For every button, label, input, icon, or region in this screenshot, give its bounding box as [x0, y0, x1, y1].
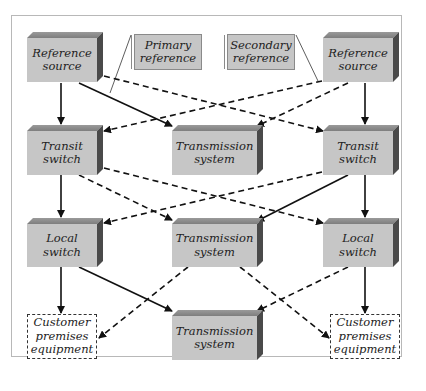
edge-refL-transitR [104, 76, 323, 131]
primary-callout-line [110, 35, 131, 93]
edge-localR-transsys3 [257, 267, 348, 311]
edge-transitR-transsys2 [257, 175, 348, 221]
transit-switch-right: Transitswitch [323, 125, 399, 175]
local-switch-right: Localswitch [323, 218, 399, 267]
dashed-edges [79, 76, 348, 338]
box-front-face: Transitswitch [323, 131, 393, 175]
box-front-face: Transmissionsystem [172, 316, 257, 360]
local-switch-left: Localswitch [27, 218, 103, 267]
transmission-system-2: Transmissionsystem [172, 218, 263, 267]
transmission-system-3: Transmissionsystem [172, 310, 263, 360]
box-front-face: Referencesource [27, 38, 97, 82]
box-side-face [97, 125, 103, 175]
secondary-reference-label-box: Secondaryreference [227, 34, 295, 70]
customer-premises-equipment-left: Customerpremisesequipment [27, 314, 97, 359]
box-side-face [393, 32, 399, 82]
box-front-face: Localswitch [27, 224, 97, 267]
box-front-face: Transmissionsystem [172, 131, 257, 175]
box-side-face [257, 125, 263, 175]
primary-reference-label-box: Primaryreference [134, 34, 202, 70]
reference-source-left-label: Referencesource [32, 47, 91, 74]
secondary-callout-line [296, 35, 318, 81]
transit-switch-left: Transitswitch [27, 125, 103, 175]
reference-source-left: Referencesource [27, 32, 103, 82]
customer-premises-equipment-right: Customerpremisesequipment [330, 314, 400, 359]
box-side-face [257, 218, 263, 267]
box-side-face [97, 32, 103, 82]
edge-localL-transsys3 [79, 267, 172, 311]
box-front-face: Localswitch [323, 224, 393, 267]
edge-refR-transsys1 [257, 83, 348, 126]
box-side-face [393, 125, 399, 175]
box-front-face: Referencesource [323, 38, 393, 82]
box-front-face: Transmissionsystem [172, 224, 257, 267]
reference-source-right: Referencesource [323, 32, 399, 82]
box-side-face [257, 310, 263, 360]
reference-source-right-label: Referencesource [328, 47, 387, 74]
box-side-face [97, 218, 103, 267]
box-side-face [393, 218, 399, 267]
edge-refR-transitL [104, 81, 322, 131]
transmission-system-1: Transmissionsystem [172, 125, 263, 175]
box-front-face: Transitswitch [27, 131, 97, 175]
